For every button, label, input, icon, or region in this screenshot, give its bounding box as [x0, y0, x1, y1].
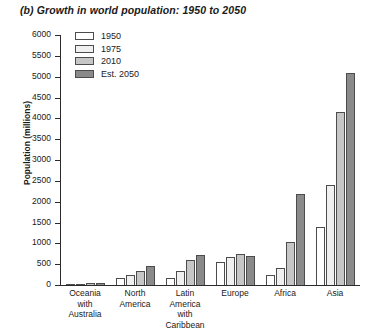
- bar: [216, 262, 225, 285]
- legend-label: 1975: [101, 44, 121, 54]
- bar: [196, 255, 205, 285]
- bar-group: [260, 35, 310, 285]
- bar: [226, 257, 235, 285]
- x-axis-label: Latin America with Caribbean: [160, 288, 210, 330]
- y-tick-label: 500: [17, 258, 51, 268]
- legend-label: 1950: [101, 31, 121, 41]
- legend-item: 1950: [75, 30, 139, 43]
- bar: [136, 271, 145, 285]
- x-axis-label: Oceania with Australia: [60, 288, 110, 320]
- x-axis-line: [60, 285, 360, 286]
- bar: [246, 256, 255, 285]
- y-tick-label: 0: [17, 279, 51, 289]
- bar: [276, 268, 285, 286]
- bar: [116, 278, 125, 285]
- x-axis-label: North America: [110, 288, 160, 309]
- bar-group: [160, 35, 210, 285]
- y-tick-label: 1000: [17, 237, 51, 247]
- legend-swatch: [75, 57, 94, 65]
- x-axis-label: Europe: [210, 288, 260, 299]
- bar: [66, 284, 75, 286]
- bar: [296, 194, 305, 285]
- chart-legend: 195019752010Est. 2050: [75, 30, 139, 80]
- bar: [286, 242, 295, 285]
- legend-item: 2010: [75, 55, 139, 68]
- legend-item: Est. 2050: [75, 68, 139, 81]
- bar: [266, 275, 275, 285]
- bar: [126, 275, 135, 285]
- chart-title: (b) Growth in world population: 1950 to …: [20, 4, 246, 16]
- y-tick-label: 6000: [17, 29, 51, 39]
- x-axis-label: Asia: [310, 288, 360, 299]
- bar: [146, 266, 155, 285]
- x-axis-label: Africa: [260, 288, 310, 299]
- bar: [346, 73, 355, 286]
- legend-swatch: [75, 32, 94, 40]
- legend-label: Est. 2050: [101, 69, 139, 79]
- bar: [96, 283, 105, 285]
- bar: [336, 112, 345, 285]
- y-tick-label: 2000: [17, 196, 51, 206]
- y-tick-label: 5500: [17, 50, 51, 60]
- bar: [86, 283, 95, 285]
- y-tick-label: 4000: [17, 112, 51, 122]
- y-tick-label: 5000: [17, 71, 51, 81]
- legend-label: 2010: [101, 56, 121, 66]
- bar-group: [210, 35, 260, 285]
- population-bar-chart: (b) Growth in world population: 1950 to …: [0, 0, 377, 332]
- y-tick-label: 1500: [17, 217, 51, 227]
- legend-swatch: [75, 70, 94, 78]
- bar: [176, 271, 185, 285]
- bar: [236, 254, 245, 285]
- y-tick-label: 2500: [17, 175, 51, 185]
- bar-group: [310, 35, 360, 285]
- bar: [166, 278, 175, 285]
- legend-item: 1975: [75, 43, 139, 56]
- legend-swatch: [75, 45, 94, 53]
- bar: [326, 185, 335, 285]
- bar: [316, 227, 325, 285]
- y-tick-label: 4500: [17, 92, 51, 102]
- bar: [186, 260, 195, 285]
- bar: [76, 284, 85, 286]
- y-tick-label: 3500: [17, 133, 51, 143]
- y-tick: 0: [55, 285, 60, 286]
- y-tick-label: 3000: [17, 154, 51, 164]
